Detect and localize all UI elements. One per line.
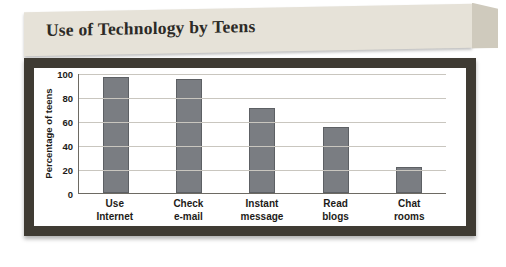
y-axis-tick-label: 80 bbox=[62, 93, 73, 104]
bar bbox=[176, 79, 202, 193]
y-axis-tick-label: 0 bbox=[68, 189, 73, 200]
x-axis-tick-label: Readblogs bbox=[301, 198, 371, 223]
x-axis-tick-label: Instantmessage bbox=[227, 198, 297, 223]
bar-series bbox=[79, 74, 446, 193]
y-axis-ticks: 020406080100 bbox=[54, 68, 76, 194]
y-axis-tick-label: 40 bbox=[62, 141, 73, 152]
gridline bbox=[79, 74, 446, 75]
bar bbox=[323, 127, 349, 193]
chart-frame: Percentage of teens 020406080100 UseInte… bbox=[24, 58, 476, 236]
x-axis-tick-label: Checke-mail bbox=[153, 198, 223, 223]
chart-figure: Use of Technology by Teens Percentage of… bbox=[0, 0, 506, 267]
gridline bbox=[79, 170, 446, 171]
y-axis-tick-label: 20 bbox=[62, 165, 73, 176]
y-axis-tick-label: 60 bbox=[62, 117, 73, 128]
x-axis-labels: UseInternetChecke-mailInstantmessageRead… bbox=[78, 198, 446, 230]
gridline bbox=[79, 146, 446, 147]
x-axis-tick-label: Chatrooms bbox=[374, 198, 444, 223]
bar bbox=[103, 77, 129, 193]
banner-fold-corner bbox=[472, 2, 498, 48]
gridline bbox=[79, 98, 446, 99]
bar bbox=[249, 108, 275, 193]
x-axis-tick-label: UseInternet bbox=[80, 198, 150, 223]
gridline bbox=[79, 122, 446, 123]
plot-area bbox=[78, 74, 446, 194]
y-axis-title-text: Percentage of teens bbox=[43, 88, 54, 178]
chart-plate: Percentage of teens 020406080100 UseInte… bbox=[34, 68, 466, 226]
y-axis-tick-label: 100 bbox=[57, 69, 73, 80]
